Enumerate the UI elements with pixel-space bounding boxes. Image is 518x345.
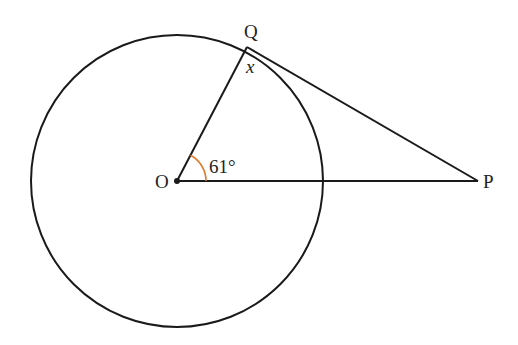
label-O: O [155, 171, 169, 192]
tangent-QP [247, 47, 478, 181]
unknown-angle-label: x [245, 56, 255, 77]
label-Q: Q [244, 21, 258, 42]
angle-label: 61° [209, 156, 236, 177]
label-P: P [483, 171, 494, 192]
geometry-diagram: O Q P 61° x [0, 0, 518, 345]
center-point [174, 178, 180, 184]
angle-arc [191, 155, 207, 181]
